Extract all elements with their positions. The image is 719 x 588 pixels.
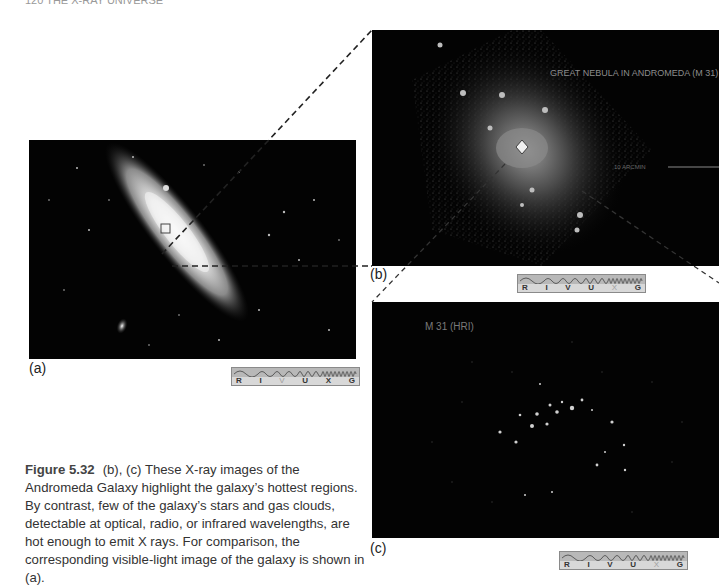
band-g: G: [635, 283, 641, 292]
caption-text: (b), (c) These X-ray images of the Andro…: [25, 462, 364, 585]
spectrum-strip-a: R I V U X G: [231, 367, 360, 386]
andromeda-visible-image: [29, 140, 356, 359]
figure-panel-c-hri-xray-image: M 31 (HRI): [372, 302, 719, 538]
andromeda-xray-image: GREAT NEBULA IN ANDROMEDA (M 31) 10 ARCM…: [372, 30, 719, 266]
band-v: V: [607, 560, 612, 569]
panel-b-label: (b): [370, 266, 387, 282]
panel-c-label: (c): [370, 540, 386, 556]
running-header: 120 THE X-RAY UNIVERSE: [25, 0, 163, 6]
band-i: I: [259, 376, 261, 385]
panel-a-label: (a): [29, 360, 46, 376]
band-v: V: [565, 283, 570, 292]
figure-number: Figure 5.32: [25, 462, 95, 477]
band-u: U: [588, 283, 594, 292]
band-u: U: [302, 376, 308, 385]
panel-b-title-text: GREAT NEBULA IN ANDROMEDA (M 31): [550, 68, 718, 78]
andromeda-hri-image: M 31 (HRI): [372, 302, 719, 538]
scale-bar-label: 10 ARCMIN: [614, 164, 646, 170]
panel-c-title-text: M 31 (HRI): [425, 321, 474, 332]
band-r: R: [236, 376, 242, 385]
figure-panel-a-visible-image: [29, 140, 356, 359]
band-x: X: [326, 376, 331, 385]
figure-caption: Figure 5.32(b), (c) These X-ray images o…: [25, 461, 370, 587]
band-r: R: [564, 560, 570, 569]
band-x-active: X: [654, 560, 659, 569]
spectrum-strip-c: R I V U X G: [559, 551, 688, 570]
band-g: G: [677, 560, 683, 569]
band-r: R: [522, 283, 528, 292]
band-u: U: [630, 560, 636, 569]
band-g: G: [349, 376, 355, 385]
spectrum-strip-b: R I V U X G: [517, 274, 646, 293]
band-i: I: [587, 560, 589, 569]
band-v-active: V: [279, 376, 284, 385]
band-i: I: [545, 283, 547, 292]
band-x-active: X: [612, 283, 617, 292]
figure-panel-b-xray-image: GREAT NEBULA IN ANDROMEDA (M 31) 10 ARCM…: [372, 30, 719, 266]
